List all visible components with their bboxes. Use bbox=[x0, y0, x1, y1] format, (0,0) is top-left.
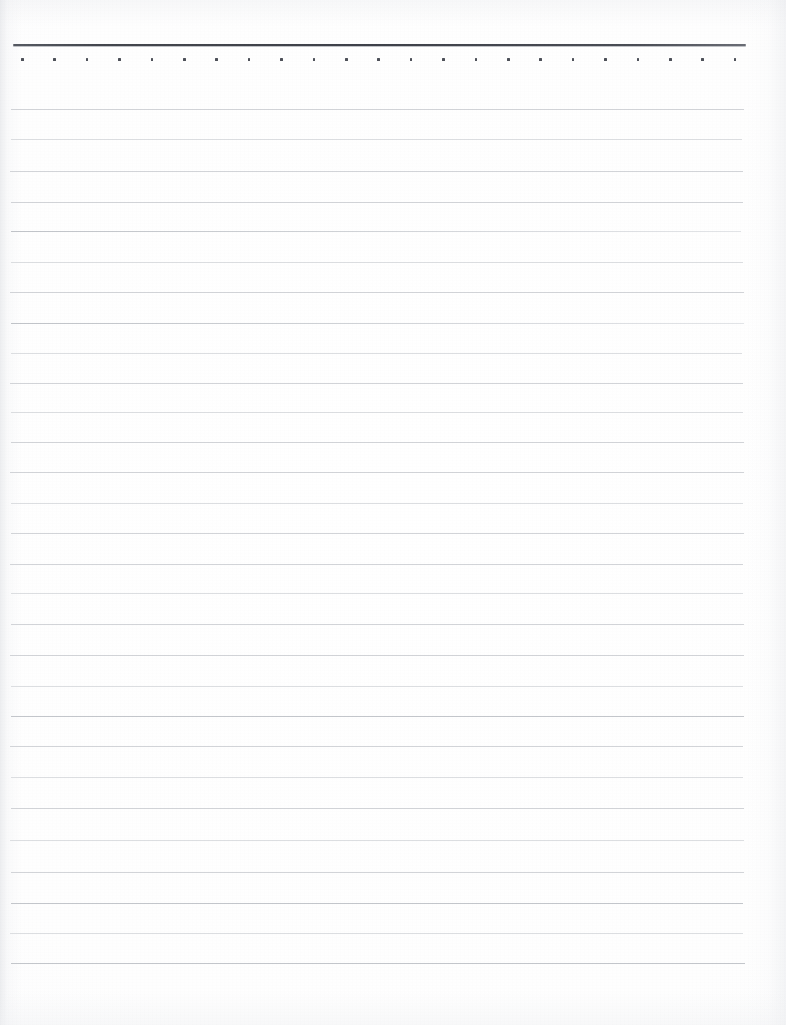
ruled-line bbox=[11, 593, 743, 594]
ruled-line bbox=[11, 716, 744, 717]
ruled-line bbox=[10, 933, 743, 934]
ruled-line bbox=[10, 564, 743, 565]
perforation-dot bbox=[183, 58, 186, 61]
perforation-dot bbox=[377, 58, 380, 61]
paper-edge-shadow-top bbox=[0, 0, 786, 26]
ruled-line bbox=[11, 262, 743, 263]
paper-edge-shadow-right bbox=[746, 0, 786, 1025]
ruled-line bbox=[11, 503, 743, 504]
perforation-dot bbox=[539, 58, 542, 61]
ruled-line bbox=[11, 808, 744, 809]
perforation-dot bbox=[53, 58, 56, 61]
perforation-dot bbox=[604, 58, 607, 61]
perforation-dot bbox=[313, 58, 316, 61]
perforation-dot bbox=[734, 58, 737, 61]
perforation-dot bbox=[280, 58, 283, 61]
ruled-line bbox=[10, 655, 744, 656]
ruled-line bbox=[11, 139, 742, 140]
ruled-line bbox=[10, 472, 744, 473]
perforation-dot bbox=[572, 58, 575, 61]
paper-edge-shadow-bottom bbox=[0, 991, 786, 1025]
ruled-line bbox=[11, 624, 744, 625]
perforation-dot bbox=[215, 58, 218, 61]
perforation-dot bbox=[669, 58, 672, 61]
header-rule bbox=[13, 44, 746, 46]
perforation-dot bbox=[21, 58, 24, 61]
perforation-dot bbox=[410, 58, 413, 61]
perforation-dot bbox=[475, 58, 478, 61]
ruled-line bbox=[10, 292, 744, 293]
ruled-line bbox=[10, 383, 743, 384]
scanned-page: Blank ruled notepad page bbox=[0, 0, 786, 1025]
perforation-dot bbox=[151, 58, 154, 61]
ruled-line bbox=[10, 746, 743, 747]
ruled-line bbox=[11, 109, 744, 110]
perforation-dot bbox=[701, 58, 704, 61]
ruled-line bbox=[11, 963, 745, 964]
ruled-line bbox=[11, 412, 743, 413]
perforation-dot bbox=[86, 58, 89, 61]
ruled-line bbox=[11, 353, 742, 354]
ruled-line bbox=[10, 171, 743, 172]
ruled-line bbox=[10, 840, 744, 841]
perforation-dot bbox=[442, 58, 445, 61]
ruled-line bbox=[11, 323, 744, 324]
ruled-line bbox=[11, 231, 741, 232]
perforation-dot bbox=[637, 58, 640, 61]
ruled-line bbox=[11, 777, 743, 778]
ruled-line bbox=[11, 872, 744, 873]
ruled-line bbox=[11, 903, 743, 904]
perforation-dot bbox=[345, 58, 348, 61]
perforation-dot bbox=[118, 58, 121, 61]
ruled-line bbox=[11, 686, 743, 687]
ruled-line bbox=[11, 442, 744, 443]
ruled-line bbox=[11, 533, 744, 534]
perforation-dot bbox=[507, 58, 510, 61]
perforation-dot bbox=[248, 58, 251, 61]
ruled-line bbox=[11, 202, 743, 203]
